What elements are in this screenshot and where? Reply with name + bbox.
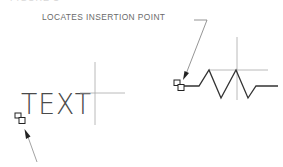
insertion-point-grip-icon[interactable] bbox=[15, 113, 25, 124]
zigzag-break-symbol bbox=[184, 70, 278, 98]
text-guides bbox=[80, 62, 125, 125]
insertion-point-grip-icon[interactable] bbox=[174, 80, 184, 91]
callout-leader bbox=[186, 20, 207, 74]
arrowhead-icon bbox=[183, 71, 189, 80]
arrowhead-icon bbox=[25, 129, 31, 139]
lower-leader bbox=[28, 137, 37, 162]
diagram-canvas bbox=[0, 0, 283, 167]
